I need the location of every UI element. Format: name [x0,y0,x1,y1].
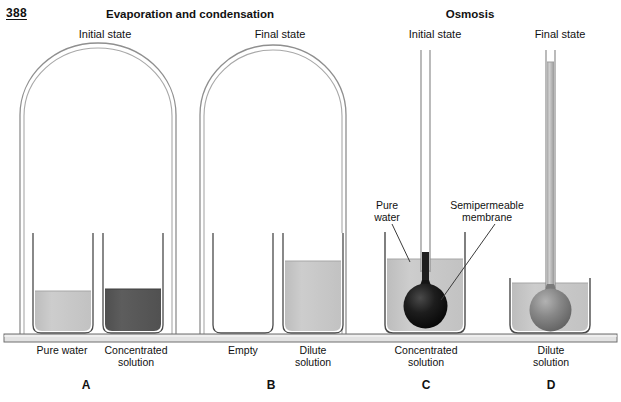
panel-letter-a: A [66,378,106,392]
annotation-pure-water: Pure water [356,199,418,223]
figure-osmosis-evaporation: 388 Evaporation and condensation Osmosis… [0,0,621,402]
panel-d-osmometer [510,50,590,333]
panel-b-beaker-empty [213,233,273,333]
caption-empty: Empty [210,344,276,356]
panel-letter-c: C [406,378,446,392]
panel-a-beaker-pure-water [33,233,93,333]
panel-c-osmometer [385,50,465,333]
caption-concentrated-solution-a: Concentrated solution [94,344,178,368]
base-shelf [4,334,617,342]
caption-dilute-solution-b: Dilute solution [278,344,348,368]
annotation-semipermeable-membrane: Semipermeable membrane [432,199,542,223]
panel-b-beaker-dilute [283,233,343,333]
caption-dilute-solution-d: Dilute solution [513,344,589,368]
panel-letter-d: D [531,378,571,392]
caption-concentrated-solution-c: Concentrated solution [380,344,472,368]
panel-letter-b: B [251,378,291,392]
panel-a-beaker-concentrated [103,233,163,333]
caption-pure-water: Pure water [26,344,98,356]
